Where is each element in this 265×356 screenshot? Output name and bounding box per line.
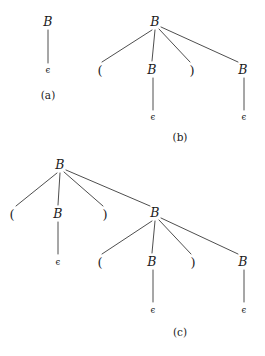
b-root-B: B: [150, 16, 159, 29]
tree-edge-b-2: [159, 29, 190, 62]
a-eps: ϵ: [46, 66, 51, 75]
tree-edge-c-6: [152, 221, 155, 253]
tree-edges-layer: [0, 0, 265, 356]
c-t-inner-eps: ϵ: [151, 306, 156, 315]
subfigure-caption-b: (b): [173, 132, 188, 143]
tree-edge-b-1: [152, 30, 155, 61]
b-right-paren: ): [189, 64, 194, 77]
c-t-left-paren: (: [97, 256, 102, 269]
c-left-paren: (: [9, 208, 14, 221]
tree-edge-b-0: [102, 30, 152, 62]
tree-edge-c-3: [66, 170, 150, 206]
tree-edge-c-8: [161, 218, 238, 254]
c-t-tail-B: B: [238, 256, 247, 269]
a-root-B: B: [43, 16, 52, 29]
c-t-inner-B: B: [147, 256, 156, 269]
c-tail-B: B: [150, 207, 159, 220]
b-inner-B: B: [147, 64, 156, 77]
b-tail-eps: ϵ: [242, 113, 247, 122]
parse-tree-figure: Bϵ(a)B(B)Bϵϵ(b)B(B)Bϵ(B)Bϵϵ(c): [0, 0, 265, 356]
subfigure-caption-a: (a): [41, 90, 55, 101]
tree-edge-c-0: [16, 173, 57, 206]
tree-edge-b-3: [161, 27, 238, 62]
subfigure-caption-c: (c): [173, 327, 187, 338]
tree-edge-c-7: [159, 220, 191, 254]
c-t-tail-eps: ϵ: [242, 306, 247, 315]
b-tail-B: B: [238, 64, 247, 77]
b-left-paren: (: [97, 64, 102, 77]
tree-edge-c-1: [58, 173, 60, 205]
c-inner-eps: ϵ: [56, 258, 61, 267]
c-root-B: B: [55, 159, 64, 172]
c-right-paren: ): [102, 208, 107, 221]
b-inner-eps: ϵ: [151, 113, 156, 122]
c-inner-B: B: [53, 208, 62, 221]
c-t-right-paren: ): [190, 256, 195, 269]
tree-edge-c-5: [102, 221, 152, 254]
